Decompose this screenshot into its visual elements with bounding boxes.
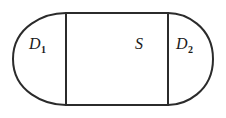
region-label-d1: D1 (29, 36, 46, 55)
region-label-d2: D2 (176, 36, 193, 55)
stadium-outline (13, 13, 213, 105)
region-label-s: S (135, 36, 144, 55)
region-label-s-glyph: S (135, 35, 143, 52)
region-label-d2-subscript: 2 (188, 44, 193, 55)
figure-canvas: D1 S D2 (0, 0, 226, 118)
region-label-d1-glyph: D (29, 35, 41, 52)
region-label-d2-glyph: D (176, 35, 188, 52)
stadium-diagram (0, 0, 226, 118)
region-label-d1-subscript: 1 (41, 44, 46, 55)
